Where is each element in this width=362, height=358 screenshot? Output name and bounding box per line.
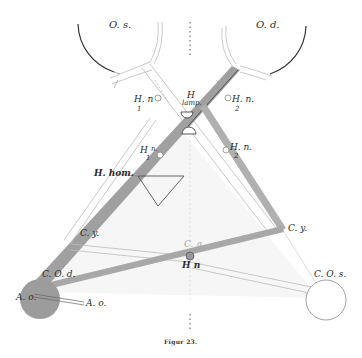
label-h-n-2-sub: 2 [235,106,239,113]
label-h-hom: H. hom. [94,169,134,178]
label-h2-n: H. n. [230,143,252,152]
label-o-d: O. d. [256,20,280,30]
triangle-field [38,126,319,298]
left-eye-arc [78,24,114,72]
marker-h1-n [157,152,163,158]
label-o-s: O. s. [109,20,131,30]
label-h-n-2: H. n. [232,95,254,104]
label-h-lamp-sub: lamp. [182,100,202,107]
marker-h2-n [223,147,229,153]
diagram-canvas [0,0,362,358]
label-c-y-left: C. y. [80,229,99,238]
label-h-n-center: H n [182,261,200,270]
label-h1-n-sub: 1 [146,155,150,162]
joint-h-n [186,252,194,260]
figure-23: O. s. O. d. H. n 1 H lamp. H. n. 2 H 1 n… [0,0,362,358]
right-eye-arc [270,26,306,74]
figure-caption: Figur 23. [164,338,198,345]
label-a-o-right: A. o. [86,299,106,308]
marker-h-n-1 [155,95,161,101]
label-h2-n-sub: 2 [234,153,238,160]
label-h-n-1: H. n [134,95,153,104]
label-h1-n-suffix: n. [151,146,158,153]
marker-h-n-2 [225,95,231,101]
label-c-o-d: C. O. d. [42,270,75,279]
label-c-y-right: C. y. [288,224,307,233]
label-c-q: C. q. [184,240,205,249]
label-a-o-left: A. o. [16,293,36,302]
label-c-o-s: C. O. s. [314,270,346,279]
lens-c-o-s [306,280,346,320]
label-h-n-1-sub: 1 [137,106,141,113]
